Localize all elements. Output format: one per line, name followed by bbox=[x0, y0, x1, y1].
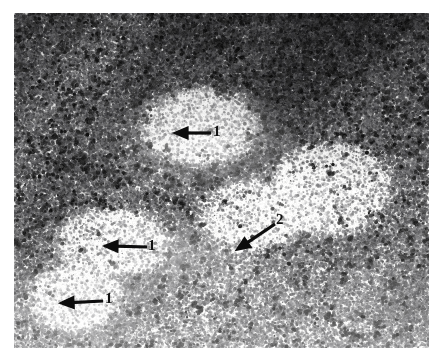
figure-root: 1 1 2 bbox=[0, 0, 438, 364]
annotation-label-1-lower: 1 bbox=[105, 291, 113, 306]
annotation-label-2-centre: 2 bbox=[276, 212, 284, 227]
histology-micrograph-plate: 1 1 2 bbox=[14, 13, 429, 348]
annotation-label-1-middle: 1 bbox=[148, 238, 156, 253]
annotation-label-1-upper: 1 bbox=[213, 124, 221, 139]
tissue-texture-canvas bbox=[14, 13, 429, 348]
